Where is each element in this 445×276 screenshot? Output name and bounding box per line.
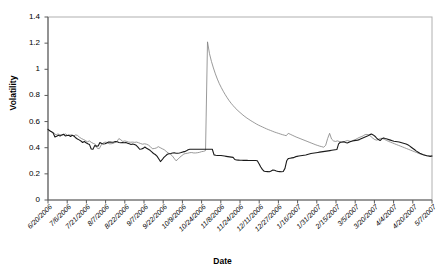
plot-canvas [0,0,445,276]
series-implied-volatility-gray [48,42,432,161]
data-series-layer [48,42,432,172]
axis-tick-marks [45,17,433,204]
plot-border [48,17,432,200]
axis-frame [48,17,432,200]
series-realized-volatility-black [48,129,432,171]
volatility-line-chart: Volatility Date 00.20.40.60.811.21.4 6/2… [0,0,445,276]
